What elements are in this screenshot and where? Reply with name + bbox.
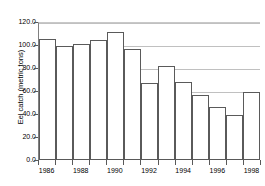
- x-tick-mark: [209, 160, 210, 165]
- y-tick-label: 0.0: [12, 156, 36, 164]
- x-tick-mark: [192, 160, 193, 165]
- y-tick-label: 80.0: [12, 64, 36, 72]
- eel-catch-bar-chart: Eel catch (metric tons) 0.020.040.060.08…: [0, 0, 265, 186]
- bar: [175, 82, 192, 160]
- x-tick-mark: [158, 160, 159, 165]
- x-axis-tick-labels: 1986198819901992199419961998: [38, 166, 260, 178]
- x-tick-mark: [175, 160, 176, 165]
- x-tick-mark: [55, 160, 56, 165]
- bar: [124, 49, 141, 160]
- bar: [90, 40, 107, 160]
- y-axis-tick-labels: 0.020.040.060.080.0100.0120.0: [12, 0, 36, 186]
- x-tick-mark: [89, 160, 90, 165]
- x-tick-label: 1992: [132, 166, 166, 175]
- bar: [107, 32, 124, 160]
- x-tick-mark: [106, 160, 107, 165]
- x-tick-label: 1986: [30, 166, 64, 175]
- y-tick-label: 20.0: [12, 133, 36, 141]
- x-tick-mark: [38, 160, 39, 165]
- bar: [226, 115, 243, 160]
- x-tick-label: 1988: [64, 166, 98, 175]
- y-tick-label: 120.0: [12, 18, 36, 26]
- x-tick-label: 1990: [98, 166, 132, 175]
- x-tick-mark: [72, 160, 73, 165]
- bar: [39, 39, 56, 160]
- bar: [56, 46, 73, 160]
- x-tick-mark: [123, 160, 124, 165]
- x-tick-label: 1998: [234, 166, 265, 175]
- y-tick-label: 60.0: [12, 87, 36, 95]
- y-tick-label: 40.0: [12, 110, 36, 118]
- bar-series: [39, 23, 260, 160]
- x-tick-mark: [226, 160, 227, 165]
- x-tick-label: 1994: [166, 166, 200, 175]
- bar: [141, 83, 158, 160]
- x-tick-mark: [260, 160, 261, 165]
- x-axis-ticks: [38, 160, 260, 165]
- bar: [192, 95, 209, 160]
- y-tick-label: 100.0: [12, 41, 36, 49]
- x-tick-label: 1996: [200, 166, 234, 175]
- x-tick-mark: [243, 160, 244, 165]
- plot-area: [38, 22, 260, 160]
- bar: [243, 92, 260, 160]
- bar: [209, 107, 226, 160]
- bar: [73, 44, 90, 160]
- bar: [158, 66, 175, 160]
- x-tick-mark: [140, 160, 141, 165]
